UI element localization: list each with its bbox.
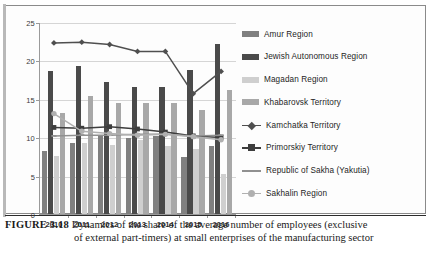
legend-item[interactable]: Magadan Region	[242, 74, 328, 86]
legend-label: Republic of Sakha (Yakutia)	[266, 166, 370, 175]
caption-rule	[5, 215, 426, 216]
legend-swatch-icon	[242, 77, 259, 83]
line-marker	[191, 134, 196, 139]
legend-label: Amur Region	[264, 30, 313, 39]
figure-caption-line1: Dynamics of the share of the average num…	[72, 219, 368, 230]
line-marker	[218, 137, 223, 142]
legend-label: Magadan Region	[264, 75, 328, 84]
y-axis-tick-label: 15	[26, 95, 35, 104]
y-axis-tick-label: 25	[26, 19, 35, 28]
line-marker	[135, 49, 141, 55]
legend-swatch-icon	[242, 99, 259, 105]
legend-line-marker-icon	[242, 166, 261, 175]
legend-item[interactable]: Sakhalin Region	[242, 187, 327, 199]
legend-item[interactable]: Republic of Sakha (Yakutia)	[242, 165, 370, 177]
figure-screenshot: 0510152025 2010201120122013201420152016 …	[0, 0, 431, 261]
line-marker	[79, 39, 85, 45]
y-axis-tick-label: 5	[31, 172, 35, 181]
line-marker	[107, 42, 113, 48]
line-marker	[79, 134, 84, 136]
line-marker	[218, 134, 223, 136]
chart-frame: 0510152025 2010201120122013201420152016 …	[5, 5, 426, 214]
legend-item[interactable]: Primorskiy Territory	[242, 142, 338, 154]
legend-line-marker-icon	[242, 189, 261, 198]
legend-item[interactable]: Amur Region	[242, 28, 313, 40]
line-marker	[107, 131, 112, 136]
legend-line-marker-icon	[242, 121, 261, 130]
legend-item[interactable]: Kamchatka Territory	[242, 119, 341, 131]
y-axis-tick-label: 10	[26, 134, 35, 143]
line-marker	[163, 132, 168, 137]
legend-label: Jewish Autonomous Region	[264, 52, 367, 61]
plot-inner: 0510152025 2010201120122013201420152016	[39, 23, 236, 215]
legend-label: Sakhalin Region	[266, 189, 327, 198]
line-marker	[51, 111, 56, 116]
y-axis-tick-label: 20	[26, 57, 35, 66]
legend-label: Primorskiy Territory	[266, 143, 338, 152]
legend-item[interactable]: Jewish Autonomous Region	[242, 51, 367, 63]
line-marker	[52, 125, 57, 130]
line-marker	[51, 135, 56, 137]
figure-number: FIGURE 3.18	[5, 219, 69, 230]
legend-label: Khabarovsk Territory	[264, 98, 341, 107]
line-marker	[51, 40, 57, 46]
line-marker	[135, 127, 140, 132]
legend-line-marker-icon	[242, 143, 261, 152]
legend-item[interactable]: Khabarovsk Territory	[242, 96, 341, 108]
figure-caption: FIGURE 3.18 Dynamics of the share of the…	[5, 218, 426, 244]
chart-legend: Amur RegionJewish Autonomous RegionMagad…	[242, 28, 424, 210]
legend-swatch-icon	[242, 31, 259, 37]
line-marker	[107, 124, 112, 129]
figure-caption-line2: of external part-timers) at small enterp…	[74, 231, 426, 244]
legend-label: Kamchatka Territory	[266, 121, 341, 130]
line-marker	[135, 132, 140, 137]
chart-plot-area: 0510152025 2010201120122013201420152016	[39, 23, 236, 215]
legend-swatch-icon	[242, 54, 259, 60]
line-series-group	[39, 23, 236, 215]
line-marker	[79, 129, 84, 134]
